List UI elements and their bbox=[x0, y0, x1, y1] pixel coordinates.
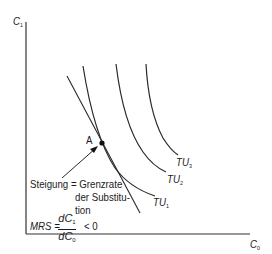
formula-lhs: MRS = bbox=[30, 220, 60, 232]
curve-label-tu3: TU3 bbox=[176, 156, 192, 172]
tangency-point-a bbox=[99, 140, 104, 145]
indifference-curve-tu2 bbox=[116, 64, 166, 172]
formula-fraction: dC1 dC0 bbox=[58, 213, 76, 246]
annotation-line-1: Steigung = Grenzrate bbox=[30, 178, 122, 190]
point-label-a: A bbox=[86, 134, 92, 146]
formula-numerator: dC1 bbox=[58, 213, 75, 228]
indifference-curve-tu3 bbox=[146, 64, 178, 155]
y-axis-label: C1 bbox=[13, 15, 23, 31]
curve-label-tu2: TU2 bbox=[167, 173, 183, 189]
annotation-line-3: tion bbox=[75, 204, 91, 216]
formula-rhs: < 0 bbox=[84, 220, 98, 232]
annotation-line-2: der Substitu- bbox=[75, 191, 130, 203]
curve-label-tu1: TU1 bbox=[153, 196, 169, 212]
x-axis-label: C0 bbox=[250, 238, 260, 254]
indifference-curve-diagram bbox=[0, 0, 272, 254]
annotation-arrow bbox=[62, 148, 96, 178]
formula-denominator: dC0 bbox=[58, 231, 75, 246]
